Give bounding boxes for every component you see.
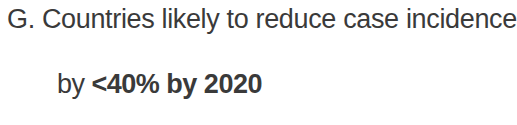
- caption-line-2-emphasis: <40% by 2020: [92, 69, 262, 99]
- figure-caption-panel: G. Countries likely to reduce case incid…: [0, 0, 435, 83]
- caption-line-2-lead: by: [57, 69, 92, 99]
- caption-line-1: G. Countries likely to reduce case incid…: [7, 6, 517, 33]
- caption-line-2: by <40% by 2020: [29, 44, 262, 125]
